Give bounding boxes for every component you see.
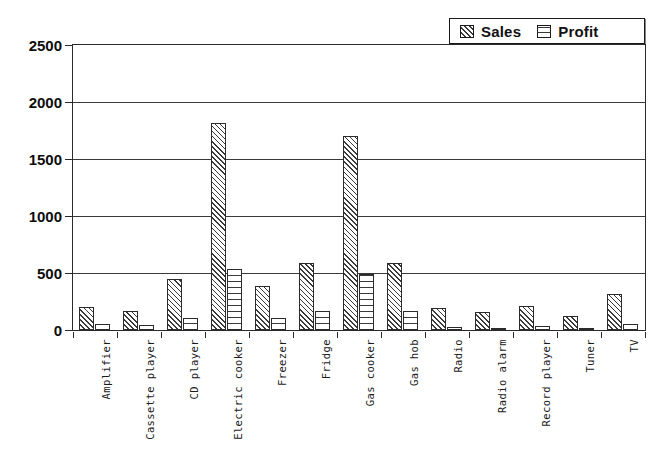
y-tick-mark-0 <box>65 330 72 331</box>
bar-profit <box>139 325 154 330</box>
bar-profit <box>535 326 550 330</box>
x-axis-label: Record player <box>540 339 552 426</box>
x-axis-label: Tuner <box>584 339 596 373</box>
bar-profit <box>271 318 286 330</box>
x-tick-mark <box>601 332 602 338</box>
legend-label-profit: Profit <box>558 24 598 39</box>
bar-profit <box>95 324 110 330</box>
x-tick-mark <box>557 332 558 338</box>
x-axis-label: Amplifier <box>100 339 112 400</box>
bar-groups <box>73 45 645 330</box>
bar-group <box>293 45 337 330</box>
y-tick-label-2000: 2000 <box>0 95 62 110</box>
x-tick-mark <box>645 332 646 338</box>
bar-profit <box>491 328 506 330</box>
x-tick-mark <box>381 332 382 338</box>
x-tick-mark <box>513 332 514 338</box>
bar-profit <box>315 311 330 330</box>
bar-profit <box>403 311 418 330</box>
bar-profit <box>183 318 198 330</box>
x-axis-label: Freezer <box>276 339 288 386</box>
bar-group <box>513 45 557 330</box>
bar-sales <box>343 136 358 330</box>
bar-group <box>469 45 513 330</box>
bar-sales <box>519 306 534 331</box>
legend-entry-profit: Profit <box>537 24 598 39</box>
bar-sales <box>299 263 314 330</box>
bar-sales <box>475 312 490 330</box>
x-axis-label: Electric cooker <box>232 339 244 440</box>
x-tick-mark <box>249 332 250 338</box>
legend-label-sales: Sales <box>481 24 521 39</box>
bar-group <box>337 45 381 330</box>
x-axis-label: Radio <box>452 339 464 373</box>
x-tick-mark <box>73 332 74 338</box>
x-tick-mark <box>117 332 118 338</box>
y-tick-mark-500 <box>65 273 72 274</box>
y-tick-mark-2000 <box>65 102 72 103</box>
x-tick-mark <box>469 332 470 338</box>
y-tick-label-1000: 1000 <box>0 209 62 224</box>
bar-chart: Sales Profit 05001000150020002500 Amplif… <box>0 0 662 463</box>
x-axis-label: Radio alarm <box>496 339 508 413</box>
bar-group <box>601 45 645 330</box>
x-axis-label: Cassette player <box>144 339 156 440</box>
x-tick-mark <box>205 332 206 338</box>
x-tick-mark <box>293 332 294 338</box>
y-tick-mark-1500 <box>65 159 72 160</box>
bar-group <box>161 45 205 330</box>
bar-sales <box>123 311 138 330</box>
bar-group <box>425 45 469 330</box>
bar-sales <box>607 294 622 330</box>
bar-group <box>557 45 601 330</box>
y-tick-mark-2500 <box>65 45 72 46</box>
diagonal-hatch-swatch-icon <box>460 25 474 38</box>
bar-sales <box>167 279 182 330</box>
bar-group <box>73 45 117 330</box>
x-axis-label: Gas hob <box>408 339 420 386</box>
bar-sales <box>211 123 226 330</box>
x-tick-mark <box>425 332 426 338</box>
x-tick-mark <box>337 332 338 338</box>
bar-group <box>117 45 161 330</box>
bar-profit <box>579 328 594 330</box>
horizontal-hatch-swatch-icon <box>537 25 551 38</box>
y-tick-label-1500: 1500 <box>0 152 62 167</box>
x-tick-mark <box>161 332 162 338</box>
bar-sales <box>431 308 446 330</box>
bar-group <box>249 45 293 330</box>
bar-sales <box>255 286 270 330</box>
y-tick-label-500: 500 <box>0 266 62 281</box>
bar-sales <box>563 316 578 330</box>
bar-group <box>381 45 425 330</box>
bar-profit <box>447 327 462 330</box>
y-tick-label-2500: 2500 <box>0 38 62 53</box>
y-tick-mark-1000 <box>65 216 72 217</box>
y-tick-label-0: 0 <box>0 323 62 338</box>
bar-group <box>205 45 249 330</box>
bar-profit <box>359 274 374 330</box>
bar-sales <box>79 307 94 330</box>
bar-profit <box>227 269 242 330</box>
x-axis-label: CD player <box>188 339 200 400</box>
bar-profit <box>623 324 638 330</box>
chart-legend: Sales Profit <box>449 18 645 44</box>
legend-entry-sales: Sales <box>460 24 521 39</box>
bar-sales <box>387 263 402 330</box>
x-axis-label: TV <box>628 339 640 352</box>
x-axis-label: Fridge <box>320 339 332 379</box>
x-axis-label: Gas cooker <box>364 339 376 406</box>
